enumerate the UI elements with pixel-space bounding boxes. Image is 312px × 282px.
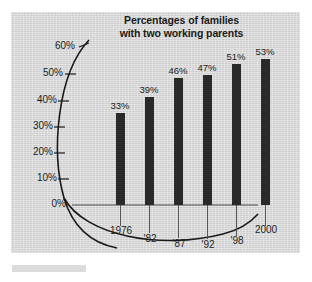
bar-group	[116, 59, 270, 205]
caption-placeholder-bar	[12, 265, 86, 272]
bar-1982	[145, 97, 154, 205]
value-label-2000: 53%	[251, 46, 279, 57]
x-tick-label-1982: '82	[135, 233, 165, 244]
value-label-1987: 46%	[164, 65, 192, 76]
y-tick-label-10: 10%	[11, 172, 57, 183]
y-tick-label-20: 20%	[11, 146, 53, 157]
x-tick-label-1992: '92	[193, 239, 223, 250]
bar-1998	[232, 64, 241, 205]
value-label-1976: 33%	[106, 100, 134, 111]
y-tick-label-30: 30%	[11, 120, 53, 131]
x-tick-label-1987: '87	[164, 238, 194, 249]
y-tick-label-0: 0%	[20, 198, 66, 209]
bar-1976	[116, 113, 125, 205]
page-title: Percentages of families with two working…	[74, 14, 289, 39]
bar-1987	[174, 78, 183, 205]
y-axis-arc	[58, 40, 117, 248]
y-tick-label-40: 40%	[11, 94, 57, 105]
y-tick-marks	[54, 43, 89, 179]
value-label-1992: 47%	[193, 62, 221, 73]
bar-2000	[261, 59, 270, 205]
y-tick-label-60: 60%	[17, 40, 75, 51]
chart-panel: Percentages of families with two working…	[11, 12, 300, 253]
y-tick-label-50: 50%	[11, 67, 63, 78]
bar-1992	[203, 75, 212, 205]
value-label-1998: 51%	[222, 51, 250, 62]
chart-figure: Percentages of families with two working…	[0, 0, 312, 282]
value-label-1982: 39%	[135, 84, 163, 95]
x-tick-label-1998: '98	[222, 235, 252, 246]
x-tick-label-2000: 2000	[247, 224, 285, 235]
